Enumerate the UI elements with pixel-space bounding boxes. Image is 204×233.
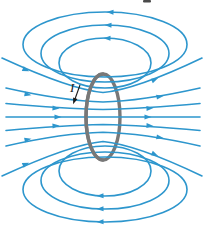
magnetic-field-diagram: I [0, 0, 204, 233]
field-line [6, 104, 200, 110]
diagram-canvas: I [0, 0, 204, 233]
field-line [6, 132, 200, 146]
current-arrowhead-icon [71, 98, 78, 106]
cropped-text-fragment [143, 0, 151, 2]
current-label: I [69, 80, 75, 95]
field-lines [2, 10, 202, 225]
field-line [6, 125, 200, 131]
field-line [6, 88, 200, 102]
field-loop-bottom-inner [59, 146, 151, 196]
field-loop-bottom-outer [23, 157, 187, 222]
